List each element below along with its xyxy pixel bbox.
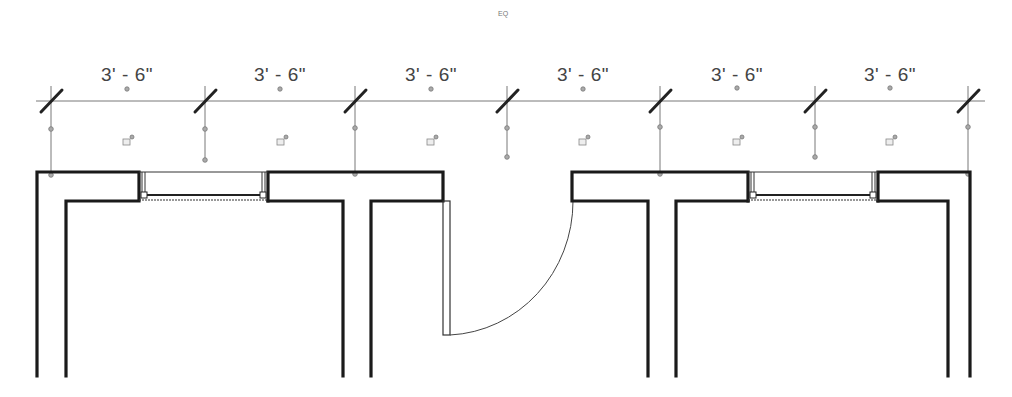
wall-right-inner-pier[interactable]	[676, 201, 748, 376]
door-panel[interactable]	[443, 201, 450, 335]
window-right[interactable]	[748, 172, 878, 200]
drawing-canvas: EQ 3' - 6" 3' - 6" 3' - 6" 3' - 6" 3' - …	[0, 0, 1012, 397]
door[interactable]	[443, 201, 573, 335]
wall-left-outer[interactable]	[37, 172, 139, 376]
text-grip-dots[interactable]	[125, 86, 892, 91]
segment-drag-handle-icons[interactable]	[123, 135, 897, 145]
wall-left-group[interactable]	[37, 172, 443, 376]
wall-left-inner-pier[interactable]	[268, 201, 343, 376]
door-swing-arc	[450, 201, 573, 335]
window-left[interactable]	[139, 172, 268, 200]
wall-right-inner[interactable]	[878, 201, 948, 376]
wall-right-group[interactable]	[572, 172, 970, 376]
floor-plan-svg	[0, 0, 1012, 397]
witness-grip-dots[interactable]	[49, 125, 971, 178]
dimension-string[interactable]	[36, 86, 985, 178]
